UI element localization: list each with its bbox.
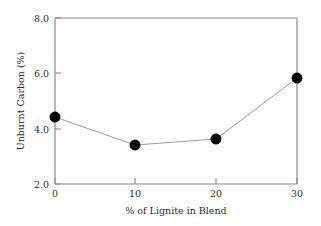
x-tick-label-10: 10 (129, 188, 141, 199)
y-axis-title: Unburnt Carbon (%) (15, 52, 26, 151)
y-tick-label-8: 8.0 (34, 13, 49, 24)
series-line-path (55, 78, 297, 145)
x-tick-labels: 0 10 20 30 (52, 188, 303, 199)
y-tick-labels: 8.0 6.0 4.0 2.0 (34, 13, 49, 190)
y-tick-label-2: 2.0 (34, 179, 49, 190)
x-tick-label-0: 0 (52, 188, 58, 199)
x-tick-label-30: 30 (291, 188, 303, 199)
plot-frame (55, 18, 297, 184)
x-axis-title: % of Lignite in Blend (125, 205, 226, 216)
data-point-marker (130, 140, 140, 150)
data-point-marker (292, 73, 302, 83)
y-tick-label-6: 6.0 (34, 68, 49, 79)
chart-figure: 8.0 6.0 4.0 2.0 0 10 20 30 % of Lignite … (0, 0, 321, 226)
y-axis-ticks (55, 18, 61, 184)
data-point-marker (211, 134, 221, 144)
x-axis-ticks (55, 178, 297, 184)
x-tick-label-20: 20 (210, 188, 222, 199)
y-tick-label-4: 4.0 (34, 124, 49, 135)
data-point-marker (50, 112, 60, 122)
line-chart-canvas: 8.0 6.0 4.0 2.0 0 10 20 30 % of Lignite … (0, 0, 321, 226)
data-series-unburnt-carbon (50, 73, 302, 150)
